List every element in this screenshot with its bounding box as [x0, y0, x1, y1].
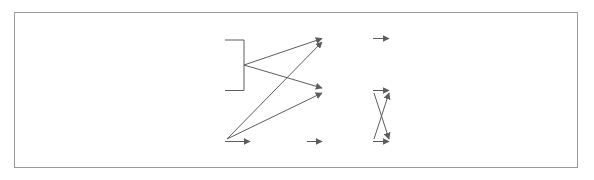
edge-lipid-glucose-bus: [225, 40, 244, 91]
diagram-canvas: [0, 0, 594, 180]
edge-amino-to-b: [227, 93, 322, 139]
edge-junction-to-b: [244, 65, 322, 88]
diagram-connectors: [0, 0, 594, 180]
edge-junction-to-a: [244, 39, 322, 66]
